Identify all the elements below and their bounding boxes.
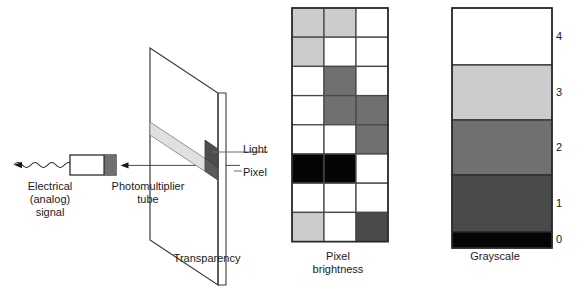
pixel-cell xyxy=(324,183,356,212)
grayscale-band xyxy=(452,175,552,232)
grayscale-tick-label: 3 xyxy=(556,86,562,98)
pixel-cell xyxy=(324,154,356,183)
pixel-cell xyxy=(292,154,324,183)
grayscale-band xyxy=(452,120,552,175)
grayscale-tick-label: 2 xyxy=(556,141,562,153)
pixel-cell xyxy=(324,66,356,95)
photomultiplier-tube xyxy=(70,155,116,175)
pixel-cell xyxy=(324,8,356,37)
pixel-cell xyxy=(324,125,356,154)
pixel-cell xyxy=(292,8,324,37)
pixel-cell xyxy=(324,96,356,125)
electrical-signal-line-3: signal xyxy=(4,206,96,219)
pixel-brightness-grid xyxy=(292,8,388,242)
grayscale-band xyxy=(452,65,552,120)
grayscale-tick-label: 1 xyxy=(556,197,562,209)
pixel-cell xyxy=(292,96,324,125)
electrical-signal-line-1: Electrical xyxy=(4,180,96,193)
photomultiplier-line-2: tube xyxy=(96,193,200,206)
pixel-brightness-line-1: Pixel xyxy=(282,250,394,263)
pixel-cell xyxy=(292,125,324,154)
pixel-cell xyxy=(356,66,388,95)
pixel-cell xyxy=(324,212,356,241)
pixel-cell xyxy=(292,66,324,95)
pixel-cell xyxy=(292,183,324,212)
grayscale-tick-label: 4 xyxy=(556,30,562,42)
pixel-cell xyxy=(356,212,388,241)
pixel-cell xyxy=(356,8,388,37)
grayscale-label: Grayscale xyxy=(440,250,550,263)
transparency-sheet xyxy=(150,48,226,285)
pixel-cell xyxy=(292,37,324,66)
transparency-label: Transparency xyxy=(152,252,262,265)
pixel-cell xyxy=(356,96,388,125)
pixel-cell xyxy=(292,212,324,241)
pixel-cell xyxy=(356,37,388,66)
pixel-cell xyxy=(356,154,388,183)
electrical-signal-arrow xyxy=(14,162,73,168)
tube-photocathode-cap xyxy=(104,156,115,175)
grayscale-band xyxy=(452,8,552,65)
figure-canvas: Electrical (analog) signal Photomultipli… xyxy=(0,0,585,288)
photomultiplier-tube-label: Photomultiplier tube xyxy=(96,180,200,206)
pixel-brightness-line-2: brightness xyxy=(282,263,394,276)
electrical-signal-line-2: (analog) xyxy=(4,193,96,206)
diagram-svg xyxy=(0,0,585,288)
arrowhead-into-tube xyxy=(121,162,129,168)
grayscale-band xyxy=(452,232,552,248)
light-callout-label: Light xyxy=(243,143,267,156)
grayscale-bar xyxy=(452,8,552,248)
electrical-signal-label: Electrical (analog) signal xyxy=(4,180,96,219)
pixel-cell xyxy=(324,37,356,66)
grayscale-tick-label: 0 xyxy=(556,233,562,245)
photomultiplier-line-1: Photomultiplier xyxy=(96,180,200,193)
pixel-callout-label: Pixel xyxy=(243,166,267,179)
pixel-cell xyxy=(356,125,388,154)
pixel-brightness-label: Pixel brightness xyxy=(282,250,394,276)
pixel-cell xyxy=(356,183,388,212)
